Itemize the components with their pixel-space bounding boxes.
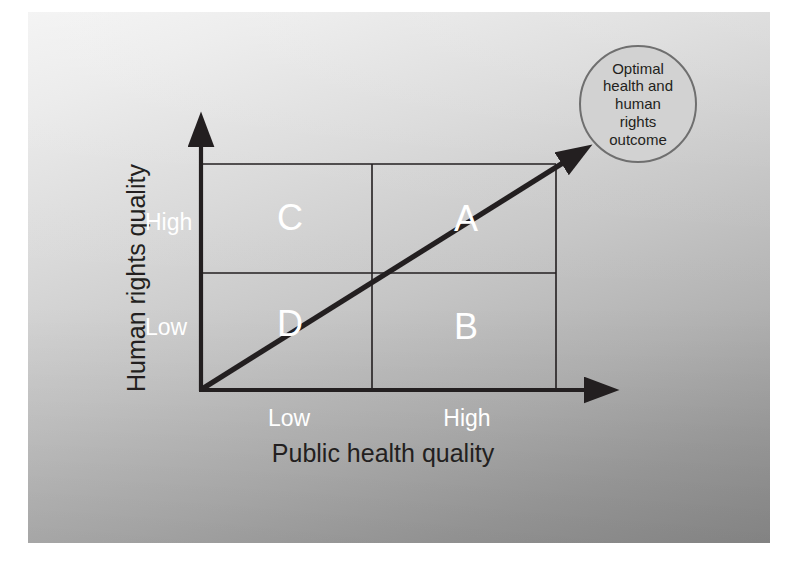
x-axis-tick-high: High: [443, 407, 490, 430]
quadrant-label-d: D: [277, 306, 303, 342]
slide-canvas: Human rights quality Public health quali…: [0, 0, 789, 571]
y-axis-tick-high: High: [145, 211, 192, 234]
x-axis-title: Public health quality: [272, 441, 494, 466]
quadrant-label-c: C: [277, 200, 303, 236]
diagonal-trajectory-arrow: [202, 161, 566, 389]
quadrant-label-a: A: [454, 201, 478, 237]
optimal-outcome-callout: Optimalhealth andhumanrightsoutcome: [579, 45, 697, 163]
optimal-outcome-callout-text: Optimalhealth andhumanrightsoutcome: [586, 60, 690, 148]
x-axis-tick-low: Low: [268, 407, 310, 430]
y-axis-title: Human rights quality: [124, 164, 149, 392]
quadrant-label-b: B: [454, 309, 478, 345]
y-axis-tick-low: Low: [145, 316, 187, 339]
